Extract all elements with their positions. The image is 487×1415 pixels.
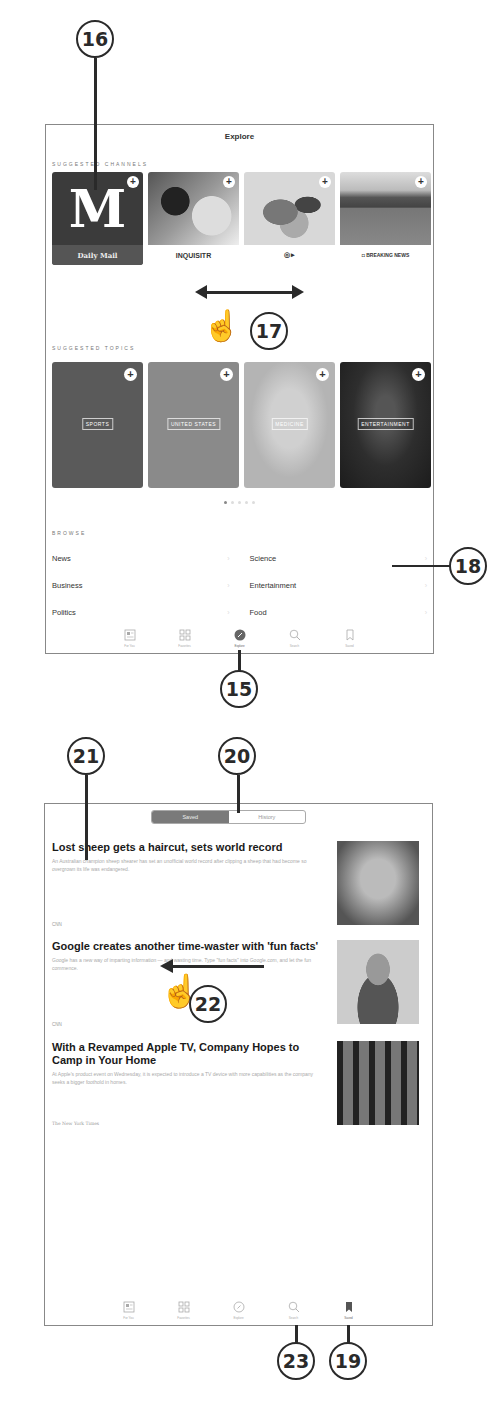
- browse-label: BROWSE: [52, 530, 86, 536]
- browse-list: News› Science› Business› Entertainment› …: [52, 545, 427, 626]
- channel-tile-breaking-news[interactable]: ◘ BREAKING NEWS +: [340, 172, 431, 265]
- suggested-topics-row: SPORTS + UNITED STATES + MEDICINE + ENTE…: [52, 362, 431, 488]
- browse-item-politics[interactable]: Politics›: [52, 599, 230, 626]
- tab-bar: For You Favorites Explore Search Saved: [45, 1297, 432, 1325]
- browse-item-news[interactable]: News›: [52, 545, 230, 572]
- segment-saved[interactable]: Saved: [152, 811, 229, 823]
- chevron-right-icon: ›: [425, 555, 427, 562]
- browse-item-label: News: [52, 554, 71, 563]
- channel-tile-inquisitr[interactable]: INQUISITR +: [148, 172, 239, 265]
- chevron-right-icon: ›: [425, 582, 427, 589]
- search-icon: [288, 1301, 300, 1313]
- callout-19: 19: [329, 1342, 367, 1380]
- callout-23-leader: [295, 1325, 298, 1343]
- tab-search[interactable]: Search: [281, 625, 309, 653]
- tab-for-you[interactable]: For You: [116, 625, 144, 653]
- topic-tile-entertainment[interactable]: ENTERTAINMENT +: [340, 362, 431, 488]
- saved-history-segmented-control: Saved History: [151, 810, 306, 824]
- add-channel-button[interactable]: +: [127, 176, 139, 188]
- add-topic-button[interactable]: +: [220, 368, 233, 381]
- tab-favorites[interactable]: Favorites: [171, 625, 199, 653]
- article-item[interactable]: With a Revamped Apple TV, Company Hopes …: [52, 1041, 425, 1127]
- apple-tv-thumbnail: [337, 1041, 419, 1125]
- tab-explore[interactable]: Explore: [226, 625, 254, 653]
- swipe-left-arrow-line: [172, 965, 264, 968]
- bookmark-icon: [343, 1301, 355, 1313]
- add-topic-button[interactable]: +: [412, 368, 425, 381]
- channel-tile-map[interactable]: ◎ ▸ +: [244, 172, 335, 265]
- add-channel-button[interactable]: +: [319, 176, 331, 188]
- search-icon: [289, 629, 301, 641]
- tab-search[interactable]: Search: [280, 1297, 308, 1325]
- suggested-channels-label: SUGGESTED CHANNELS: [52, 161, 148, 167]
- callout-17: 17: [250, 312, 288, 350]
- bookmark-icon: [344, 629, 356, 641]
- chevron-right-icon: ›: [227, 555, 229, 562]
- topic-label: ENTERTAINMENT: [357, 418, 414, 430]
- swipe-left-arrow-head: [160, 959, 173, 973]
- tab-label: Saved: [344, 1316, 353, 1320]
- browse-item-food[interactable]: Food›: [250, 599, 428, 626]
- callout-20-leader: [237, 775, 240, 813]
- tab-saved[interactable]: Saved: [335, 1297, 363, 1325]
- topic-tile-united-states[interactable]: UNITED STATES +: [148, 362, 239, 488]
- for-you-icon: [124, 629, 136, 641]
- suggested-channels-row: M Daily Mail + INQUISITR + ◎ ▸ + ◘ BREAK…: [52, 172, 431, 265]
- callout-21: 21: [67, 737, 105, 775]
- tab-label: Favorites: [177, 1316, 189, 1320]
- page-dot: [224, 501, 227, 504]
- add-topic-button[interactable]: +: [124, 368, 137, 381]
- callout-20: 20: [218, 737, 256, 775]
- tab-explore[interactable]: Explore: [225, 1297, 253, 1325]
- article-source: CNN: [52, 922, 62, 927]
- sheep-thumbnail: [337, 841, 419, 925]
- channel-tile-daily-mail[interactable]: M Daily Mail +: [52, 172, 143, 265]
- callout-16: 16: [76, 20, 114, 58]
- swipe-arrow-left-head: [195, 285, 207, 299]
- callout-21-leader: [85, 775, 88, 860]
- tab-label: Search: [289, 1316, 299, 1320]
- article-item[interactable]: Google creates another time-waster with …: [52, 940, 425, 1026]
- tab-favorites[interactable]: Favorites: [170, 1297, 198, 1325]
- channel-brand-inquisitr: INQUISITR: [148, 245, 239, 265]
- tab-saved[interactable]: Saved: [336, 625, 364, 653]
- callout-15-leader: [238, 650, 241, 672]
- browse-item-science[interactable]: Science›: [250, 545, 428, 572]
- page-title: Explore: [46, 132, 433, 141]
- browse-item-label: Politics: [52, 608, 76, 617]
- article-summary: An Australian champion sheep shearer has…: [52, 857, 320, 873]
- add-topic-button[interactable]: +: [316, 368, 329, 381]
- hand-gesture-icon: ☝: [203, 308, 240, 343]
- tab-label: Explore: [233, 1316, 243, 1320]
- suggested-topics-label: SUGGESTED TOPICS: [52, 345, 135, 351]
- callout-15: 15: [220, 670, 258, 708]
- browse-item-label: Business: [52, 581, 82, 590]
- callout-16-leader: [94, 58, 97, 190]
- add-channel-button[interactable]: +: [415, 176, 427, 188]
- chevron-right-icon: ›: [227, 609, 229, 616]
- article-title: With a Revamped Apple TV, Company Hopes …: [52, 1041, 320, 1067]
- topic-tile-sports[interactable]: SPORTS +: [52, 362, 143, 488]
- browse-item-entertainment[interactable]: Entertainment›: [250, 572, 428, 599]
- callout-22: 22: [189, 985, 227, 1023]
- swipe-arrow-right-head: [292, 285, 304, 299]
- page-indicator[interactable]: [46, 501, 433, 504]
- article-text: Lost sheep gets a haircut, sets world re…: [52, 841, 320, 873]
- explore-screen: Explore SUGGESTED CHANNELS M Daily Mail …: [45, 124, 434, 654]
- compass-icon: [233, 1301, 245, 1313]
- tab-label: Search: [290, 644, 300, 648]
- article-summary: Google has a new way of imparting inform…: [52, 956, 320, 972]
- tab-bar: For You Favorites Explore Search Saved: [46, 625, 433, 653]
- swipe-arrow-line: [205, 291, 293, 294]
- favorites-icon: [179, 629, 191, 641]
- channel-brand-daily-mail: Daily Mail: [52, 245, 143, 265]
- topic-tile-medicine[interactable]: MEDICINE +: [244, 362, 335, 488]
- favorites-icon: [178, 1301, 190, 1313]
- browse-item-business[interactable]: Business›: [52, 572, 230, 599]
- article-item[interactable]: Lost sheep gets a haircut, sets world re…: [52, 841, 425, 927]
- topic-label: UNITED STATES: [167, 418, 220, 430]
- tab-for-you[interactable]: For You: [115, 1297, 143, 1325]
- article-title: Google creates another time-waster with …: [52, 940, 320, 953]
- add-channel-button[interactable]: +: [223, 176, 235, 188]
- topic-label: SPORTS: [82, 418, 113, 430]
